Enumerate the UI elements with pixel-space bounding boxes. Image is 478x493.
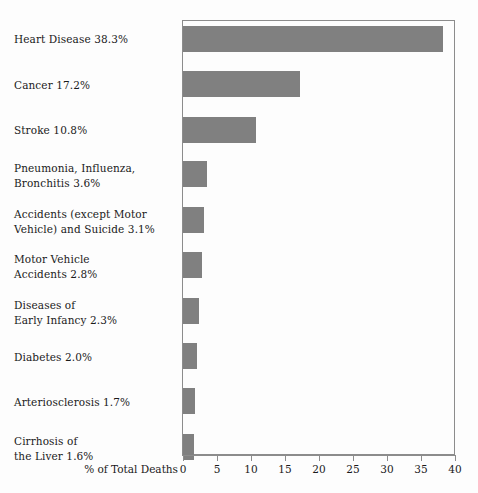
x-tick-25 [353, 455, 354, 461]
bar-chart: Heart Disease 38.3% Cancer 17.2% Stroke … [0, 0, 478, 493]
bar-early-infancy [183, 298, 199, 324]
bar-diabetes [183, 343, 197, 369]
x-tick-40 [455, 455, 456, 461]
category-label-cancer: Cancer 17.2% [14, 78, 182, 93]
bar-accidents [183, 207, 204, 233]
bar-heart-disease [183, 26, 443, 52]
x-tick-30 [387, 455, 388, 461]
bar-pneumonia [183, 161, 207, 187]
x-tick-10 [251, 455, 252, 461]
category-labels: Heart Disease 38.3% Cancer 17.2% Stroke … [0, 0, 182, 493]
x-tick-15 [285, 455, 286, 461]
bar-cancer [183, 71, 300, 97]
bar-stroke [183, 117, 256, 143]
bar-motor-vehicle [183, 252, 202, 278]
category-label-cirrhosis: Cirrhosis of the Liver 1.6% [14, 434, 182, 463]
x-tick-label-25: 25 [338, 463, 368, 476]
x-tick-label-10: 10 [236, 463, 266, 476]
x-tick-label-40: 40 [440, 463, 470, 476]
bar-cirrhosis [183, 434, 194, 460]
x-tick-label-20: 20 [304, 463, 334, 476]
x-tick-label-5: 5 [202, 463, 232, 476]
category-label-pneumonia: Pneumonia, Influenza, Bronchitis 3.6% [14, 161, 182, 190]
category-label-early-infancy: Diseases of Early Infancy 2.3% [14, 298, 182, 327]
x-tick-20 [319, 455, 320, 461]
category-label-heart-disease: Heart Disease 38.3% [14, 32, 182, 47]
x-axis-title: % of Total Deaths [28, 463, 178, 476]
x-tick-label-30: 30 [372, 463, 402, 476]
category-label-diabetes: Diabetes 2.0% [14, 350, 182, 365]
category-label-motor-vehicle: Motor Vehicle Accidents 2.8% [14, 252, 182, 281]
x-tick-0 [183, 455, 184, 461]
bar-arteriosclerosis [183, 388, 195, 414]
x-tick-35 [421, 455, 422, 461]
category-label-stroke: Stroke 10.8% [14, 123, 182, 138]
x-tick-5 [217, 455, 218, 461]
x-tick-label-35: 35 [406, 463, 436, 476]
category-label-arteriosclerosis: Arteriosclerosis 1.7% [14, 395, 182, 410]
category-label-accidents: Accidents (except Motor Vehicle) and Sui… [14, 207, 182, 236]
x-tick-label-15: 15 [270, 463, 300, 476]
bars-layer [183, 21, 455, 455]
